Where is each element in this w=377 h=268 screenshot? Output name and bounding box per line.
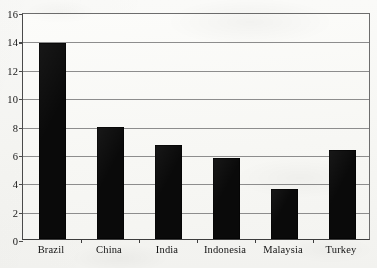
y-axis-tick (19, 184, 23, 185)
y-axis-tick (19, 128, 23, 129)
y-axis-tick-label: 16 (7, 9, 18, 20)
y-axis-tick-label: 12 (7, 65, 18, 76)
y-axis-tick-label: 2 (13, 207, 18, 218)
bar-brazil (39, 43, 66, 239)
y-axis-tick-label: 6 (13, 150, 18, 161)
y-axis-tick (19, 99, 23, 100)
y-axis-tick-label: 8 (13, 122, 18, 133)
x-axis-label-malaysia: Malaysia (263, 244, 303, 255)
y-axis-tick (19, 213, 23, 214)
gridline (23, 156, 369, 157)
gridline (23, 213, 369, 214)
x-axis-label-india: India (156, 244, 178, 255)
bar-malaysia (271, 189, 298, 239)
gridline (23, 184, 369, 185)
x-axis-label-china: China (96, 244, 122, 255)
y-axis-tick-label: 0 (13, 236, 18, 247)
gridline (23, 128, 369, 129)
x-axis-label-brazil: Brazil (38, 244, 65, 255)
y-axis-tick (19, 14, 23, 15)
x-axis-label-turkey: Turkey (326, 244, 357, 255)
x-axis-tick (81, 239, 82, 243)
x-axis-tick (197, 239, 198, 243)
gridline (23, 42, 369, 43)
y-axis-tick-label: 4 (13, 179, 18, 190)
bar-china (97, 127, 124, 239)
y-axis-tick (19, 42, 23, 43)
y-axis-tick-label: 10 (7, 94, 18, 105)
gridline (23, 71, 369, 72)
y-axis-tick (19, 71, 23, 72)
y-axis-tick (19, 156, 23, 157)
bar-turkey (329, 150, 356, 239)
y-axis-tick-label: 14 (7, 37, 18, 48)
x-axis-tick (139, 239, 140, 243)
plot-area: 0246810121416 (22, 13, 370, 240)
x-axis-tick (313, 239, 314, 243)
x-axis-label-indonesia: Indonesia (204, 244, 246, 255)
y-axis-tick (19, 241, 23, 242)
bar-chart-figure: 0246810121416 BrazilChinaIndiaIndonesiaM… (0, 0, 377, 268)
x-axis-tick (255, 239, 256, 243)
bar-india (155, 145, 182, 239)
gridline (23, 99, 369, 100)
bar-indonesia (213, 158, 240, 239)
